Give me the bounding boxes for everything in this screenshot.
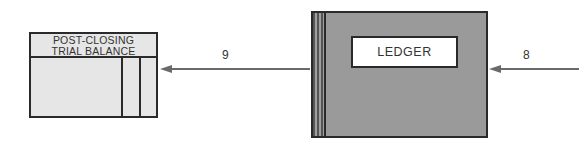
trial-balance-column-divider	[121, 58, 123, 116]
ledger-label: LEDGER	[351, 36, 458, 68]
arrow-step-8	[499, 68, 579, 70]
arrow-step-9	[170, 68, 310, 70]
step-label-9: 9	[222, 48, 229, 62]
post-closing-trial-balance-sheet: POST-CLOSING TRIAL BALANCE	[29, 32, 158, 118]
trial-balance-title-line2: TRIAL BALANCE	[31, 46, 156, 57]
ledger-spine	[313, 13, 326, 136]
trial-balance-column-divider	[139, 58, 141, 116]
trial-balance-header: POST-CLOSING TRIAL BALANCE	[31, 34, 156, 58]
step-label-8: 8	[523, 48, 530, 62]
ledger-book: LEDGER	[311, 11, 488, 138]
